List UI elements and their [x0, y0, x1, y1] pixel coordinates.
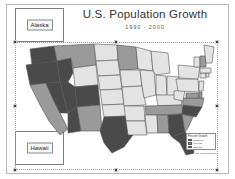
state-delaware[interactable]: [199, 92, 202, 98]
selection-handle-e[interactable]: [215, 104, 219, 108]
state-idaho[interactable]: [57, 58, 73, 82]
inset-label-alaska: Alaska: [26, 20, 52, 31]
state-oregon[interactable]: [26, 61, 60, 85]
state-tennessee[interactable]: [145, 105, 183, 115]
page-subtitle: 1990 - 2000: [70, 24, 220, 30]
state-new-mexico[interactable]: [77, 105, 102, 131]
state-wisconsin[interactable]: [136, 47, 153, 71]
state-maine[interactable]: [204, 45, 214, 63]
state-mississippi[interactable]: [145, 115, 158, 133]
selection-handle-s[interactable]: [114, 168, 118, 172]
legend-item-2: Over 20: [188, 146, 214, 149]
map-legend[interactable]: Percent Growth Under 10 10 to 20 Over 20: [186, 133, 216, 150]
state-nebraska[interactable]: [98, 75, 122, 90]
selection-handle-ne[interactable]: [215, 40, 219, 44]
state-michigan[interactable]: [151, 51, 170, 75]
state-connecticut[interactable]: [200, 73, 206, 78]
state-louisiana[interactable]: [126, 121, 147, 135]
state-massachusetts[interactable]: [200, 68, 211, 73]
state-minnesota[interactable]: [117, 45, 138, 70]
state-south-dakota[interactable]: [96, 60, 120, 76]
selection-handle-n[interactable]: [114, 40, 118, 44]
state-new-jersey[interactable]: [199, 81, 204, 91]
state-north-dakota[interactable]: [94, 44, 118, 61]
source-note: Source: U.S. Census Bureau: [186, 152, 218, 155]
legend-label-high: Over 20: [193, 146, 202, 149]
inset-box-alaska[interactable]: Alaska: [15, 8, 64, 42]
slide-canvas: U.S. Population Growth 1990 - 2000 Alask…: [0, 0, 235, 179]
selection-handle-w[interactable]: [13, 104, 17, 108]
state-west-virginia[interactable]: [174, 90, 185, 101]
state-arkansas[interactable]: [124, 106, 145, 121]
legend-swatch-high: [188, 146, 192, 148]
state-alabama[interactable]: [157, 115, 169, 133]
selection-handle-se[interactable]: [215, 168, 219, 172]
state-pennsylvania[interactable]: [176, 79, 199, 92]
selection-handle-sw[interactable]: [13, 168, 17, 172]
page-title: U.S. Population Growth: [70, 8, 220, 21]
state-rhode-island[interactable]: [206, 73, 209, 77]
state-iowa[interactable]: [120, 70, 142, 87]
state-wyoming[interactable]: [73, 65, 98, 87]
state-maryland[interactable]: [186, 93, 199, 98]
state-vermont[interactable]: [194, 57, 200, 67]
state-indiana[interactable]: [156, 75, 167, 96]
us-map-svg: [16, 43, 217, 169]
title-block: U.S. Population Growth 1990 - 2000: [70, 8, 220, 38]
selection-handle-nw[interactable]: [13, 40, 17, 44]
state-colorado[interactable]: [75, 85, 100, 107]
legend-swatch-medium: [188, 142, 192, 144]
us-choropleth-map[interactable]: [16, 43, 217, 169]
legend-swatch-low: [188, 139, 192, 141]
state-kansas[interactable]: [100, 89, 124, 105]
